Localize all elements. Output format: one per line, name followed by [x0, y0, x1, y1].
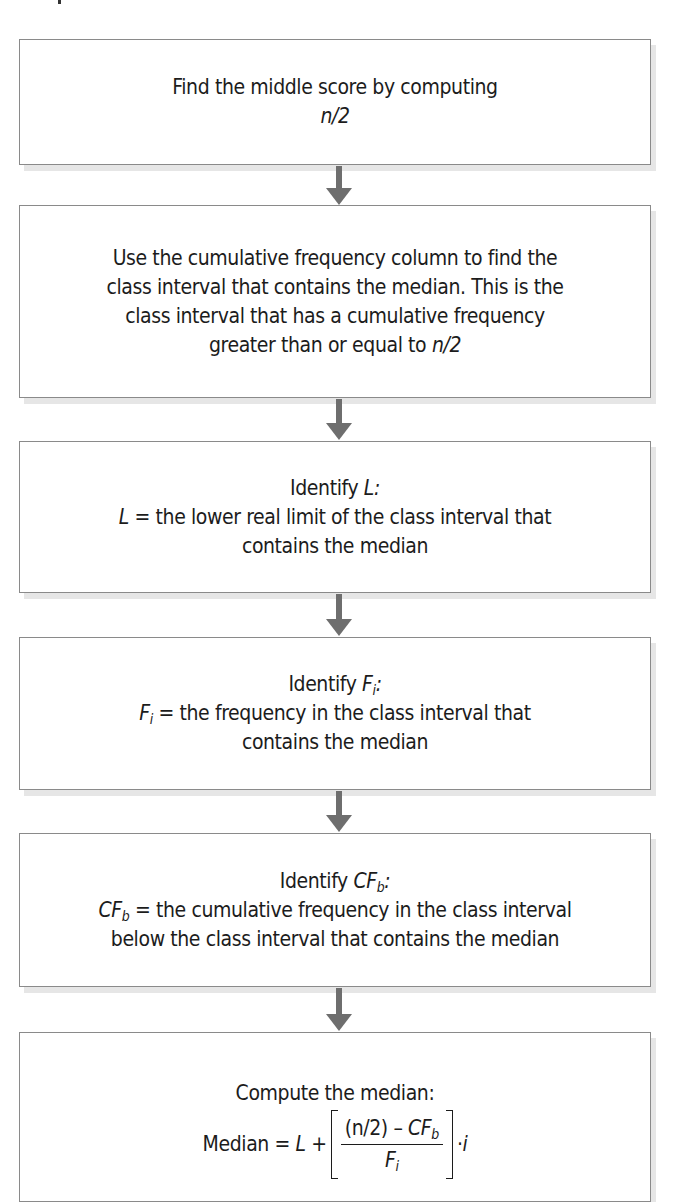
flow-step-find-median-interval: Use the cumulative frequency column to f…: [19, 205, 651, 398]
step-2-line-4: greater than or equal to n/2: [209, 331, 461, 360]
step-1-text: Find the middle score by computing: [172, 73, 497, 102]
step-4-definition: Fi = the frequency in the class interval…: [139, 699, 530, 728]
flow-step-identify-CFb: Identify CFb: CFb = the cumulative frequ…: [19, 833, 651, 987]
step-4-definition-cont: contains the median: [242, 728, 428, 757]
formula-bracket: (n/2) – CFb Fi: [331, 1114, 453, 1175]
down-arrow-icon: [332, 594, 346, 637]
down-arrow-icon: [332, 791, 346, 833]
step-2-line-1: Use the cumulative frequency column to f…: [113, 244, 558, 273]
median-formula: Median = L + (n/2) – CFb Fi ·i: [203, 1114, 468, 1175]
step-2-line-3: class interval that has a cumulative fre…: [125, 302, 545, 331]
down-arrow-icon: [332, 166, 346, 206]
flow-step-compute-median: Compute the median: Median = L + (n/2) –…: [19, 1032, 651, 1202]
flow-step-identify-Fi: Identify Fi: Fi = the frequency in the c…: [19, 637, 651, 790]
flow-step-identify-L: Identify L: L = the lower real limit of …: [19, 441, 651, 593]
formula-numerator: (n/2) – CFb: [341, 1114, 443, 1145]
down-arrow-icon: [332, 399, 346, 441]
step-3-heading: Identify L:: [290, 474, 380, 503]
down-arrow-icon: [332, 988, 346, 1032]
step-6-heading: Compute the median:: [236, 1079, 435, 1108]
step-5-definition: CFb = the cumulative frequency in the cl…: [98, 896, 571, 925]
page-edge-mark: [58, 0, 61, 4]
step-2-line-2: class interval that contains the median.…: [107, 273, 564, 302]
step-3-definition: L = the lower real limit of the class in…: [119, 503, 551, 532]
step-5-definition-cont: below the class interval that contains t…: [111, 925, 559, 954]
flow-step-find-middle-score: Find the middle score by computing n/2: [19, 39, 651, 165]
step-5-heading: Identify CFb:: [280, 867, 391, 896]
step-1-math: n/2: [320, 102, 349, 131]
step-3-definition-cont: contains the median: [242, 532, 428, 561]
step-4-heading: Identify Fi:: [288, 670, 381, 699]
formula-denominator: Fi: [385, 1145, 399, 1175]
